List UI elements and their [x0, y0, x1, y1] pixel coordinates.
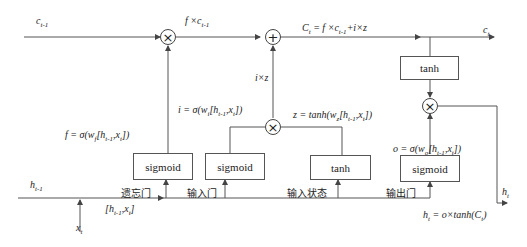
forget-multiply-node: ×: [160, 29, 176, 45]
cell-add-node: +: [265, 29, 281, 45]
box-label: sigmoid: [217, 161, 252, 173]
hidden-equation: ht = o×tanh(Ct): [423, 209, 487, 223]
forget-gate-label: 遗忘门: [121, 185, 151, 200]
multiply-icon: ×: [268, 121, 279, 134]
plus-icon: +: [268, 31, 279, 44]
x-t-label: xt: [76, 222, 82, 236]
candidate-equation: z = tanh(wz[ht-1,xt]): [293, 109, 372, 123]
output-gate-label: 输出门: [386, 185, 416, 200]
input-gate-label: 输入门: [187, 185, 217, 200]
input-state-label: 输入状态: [287, 185, 327, 200]
box-label: sigmoid: [145, 161, 180, 173]
input-multiply-node: ×: [265, 119, 281, 135]
input-gate-equation: i = σ(wi[ht-1,xt]): [178, 104, 242, 118]
input-tanh-box: tanh: [310, 155, 371, 180]
forget-gate-equation: f = σ(wf[ht-1,xt]): [65, 129, 129, 143]
c-prev-label: ct-1: [36, 15, 48, 29]
cell-tanh-box: tanh: [400, 56, 459, 80]
input-sigmoid-box: sigmoid: [205, 153, 265, 180]
output-multiply-node: ×: [422, 98, 438, 114]
input-product-label: i×z: [255, 72, 268, 83]
output-gate-equation: o = σ(wo[ht-1,xt]): [393, 143, 461, 157]
box-label: tanh: [331, 162, 350, 174]
forget-product-label: f ×ct-1: [185, 15, 209, 29]
multiply-icon: ×: [163, 31, 174, 44]
h-t-label: ht: [502, 186, 509, 200]
h-prev-label: ht-1: [30, 179, 43, 193]
concat-label: [ht-1,xt]: [105, 203, 135, 217]
box-label: tanh: [420, 62, 439, 74]
multiply-icon: ×: [425, 100, 436, 113]
c-t-label: ct: [483, 24, 489, 38]
box-label: sigmoid: [412, 163, 447, 175]
cell-state-equation: Ct = f ×ct-1+i×z: [302, 22, 367, 36]
forget-sigmoid-box: sigmoid: [133, 153, 193, 180]
output-sigmoid-box: sigmoid: [400, 155, 460, 182]
